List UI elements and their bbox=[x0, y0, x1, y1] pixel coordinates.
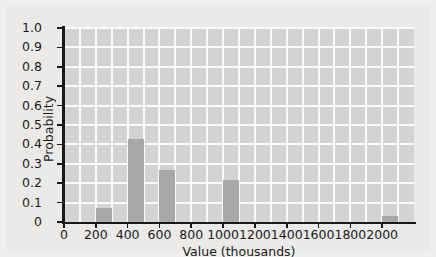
y-axis-tick bbox=[57, 47, 63, 49]
x-axis-tick-label: 1000 bbox=[207, 229, 239, 242]
gridline-vertical bbox=[254, 28, 256, 222]
x-axis-tick-label: 2000 bbox=[366, 229, 398, 242]
gridline-vertical bbox=[190, 28, 192, 222]
y-axis-tick bbox=[57, 85, 63, 87]
x-axis-tick-label: 1600 bbox=[303, 229, 335, 242]
y-axis-tick bbox=[57, 27, 63, 29]
figure-inner: 00.10.20.30.40.50.60.70.80.91.0 02004006… bbox=[6, 6, 430, 251]
gridline-vertical bbox=[79, 28, 81, 222]
y-axis-tick-label: 0.7 bbox=[22, 80, 42, 93]
y-axis-tick-label: 0.3 bbox=[22, 158, 42, 171]
gridline-vertical bbox=[302, 28, 304, 222]
gridline-vertical bbox=[95, 28, 97, 222]
y-axis-tick bbox=[57, 144, 63, 146]
plot-area bbox=[64, 28, 414, 222]
gridline-vertical bbox=[397, 28, 399, 222]
y-axis-tick-label: 1.0 bbox=[22, 22, 42, 35]
gridline-vertical bbox=[111, 28, 113, 222]
gridline-vertical bbox=[333, 28, 335, 222]
y-axis-tick-label: 0.5 bbox=[22, 119, 42, 132]
y-axis-tick bbox=[57, 105, 63, 107]
x-axis-tick-label: 200 bbox=[84, 229, 108, 242]
x-axis-tick-label: 1400 bbox=[271, 229, 303, 242]
y-axis-tick bbox=[57, 221, 63, 223]
x-axis-title: Value (thousands) bbox=[64, 244, 414, 257]
y-axis-tick-label: 0.2 bbox=[22, 177, 42, 190]
y-axis-tick-label: 0.9 bbox=[22, 41, 42, 54]
gridline-vertical bbox=[318, 28, 320, 222]
y-axis-tick-label: 0.8 bbox=[22, 61, 42, 74]
bar bbox=[96, 208, 112, 222]
figure: 00.10.20.30.40.50.60.70.80.91.0 02004006… bbox=[0, 0, 436, 257]
gridline-vertical bbox=[206, 28, 208, 222]
x-axis-tick-label: 600 bbox=[148, 229, 172, 242]
x-axis-tick-label: 1200 bbox=[239, 229, 271, 242]
bar bbox=[159, 170, 175, 222]
y-axis-tick bbox=[57, 66, 63, 68]
x-axis-line bbox=[62, 222, 416, 225]
y-axis-tick bbox=[57, 202, 63, 204]
y-axis-tick bbox=[57, 124, 63, 126]
y-axis-tick bbox=[57, 182, 63, 184]
y-axis-tick bbox=[57, 163, 63, 165]
x-axis-tick-label: 800 bbox=[179, 229, 203, 242]
x-axis-tick-label: 1800 bbox=[334, 229, 366, 242]
gridline-vertical bbox=[381, 28, 383, 222]
y-axis-tick-label: 0.4 bbox=[22, 138, 42, 151]
gridline-vertical bbox=[365, 28, 367, 222]
y-axis-tick-label: 0 bbox=[34, 216, 42, 229]
gridline-vertical bbox=[270, 28, 272, 222]
x-axis-tick-label: 400 bbox=[116, 229, 140, 242]
x-axis-tick-label: 0 bbox=[60, 229, 68, 242]
y-axis-title: Probability bbox=[41, 95, 56, 161]
bar bbox=[223, 180, 239, 222]
gridline-vertical bbox=[286, 28, 288, 222]
y-axis-tick-label: 0.6 bbox=[22, 100, 42, 113]
bar bbox=[128, 139, 144, 222]
y-axis-tick-label: 0.1 bbox=[22, 197, 42, 210]
gridline-vertical bbox=[349, 28, 351, 222]
